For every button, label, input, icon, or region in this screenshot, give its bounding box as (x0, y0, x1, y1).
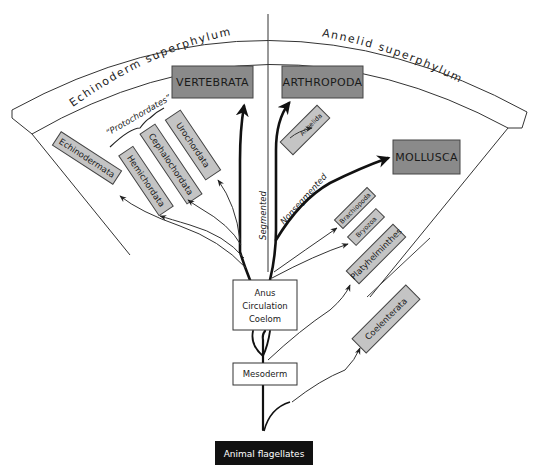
anus-circulation-coelom-node: Anus Circulation Coelom (233, 280, 297, 330)
coelenterata-box: Coelenterata (352, 285, 420, 353)
svg-text:Mesoderm: Mesoderm (243, 369, 287, 379)
mesoderm-node: Mesoderm (233, 363, 297, 385)
protochordates-label: “Protochordates” (104, 92, 173, 138)
echinodermata-box: Echinodermata (52, 132, 121, 185)
mollusca-box: MOLLUSCA (393, 140, 460, 174)
phylogeny-diagram: Echinoderm superphylum Annelid superphyl… (0, 0, 537, 472)
svg-text:Coelom: Coelom (249, 314, 281, 324)
arthropoda-box: ARTHROPODA (282, 66, 363, 98)
svg-text:ARTHROPODA: ARTHROPODA (283, 76, 363, 89)
animal-flagellates-root: Animal flagellates (215, 441, 313, 465)
svg-text:MOLLUSCA: MOLLUSCA (395, 151, 458, 164)
svg-text:Animal flagellates: Animal flagellates (224, 449, 305, 459)
svg-text:Coelenterata: Coelenterata (363, 296, 409, 342)
svg-text:Echinodermata: Echinodermata (57, 136, 116, 179)
svg-text:Anus: Anus (254, 288, 276, 298)
vertebrata-box: VERTEBRATA (172, 66, 253, 98)
nonsegmented-label: Nonsegmented (278, 171, 329, 226)
svg-text:Circulation: Circulation (242, 301, 288, 311)
svg-text:VERTEBRATA: VERTEBRATA (176, 76, 249, 89)
segmented-label: Segmented (258, 191, 268, 240)
